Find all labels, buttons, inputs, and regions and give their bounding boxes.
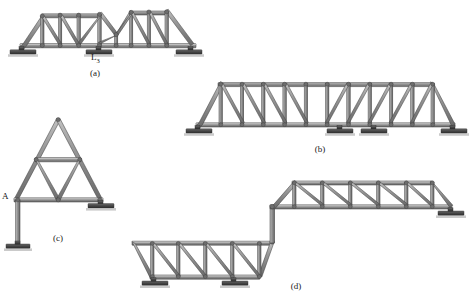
truss-c-mid-tie <box>35 158 81 162</box>
joint-label-a: A <box>2 191 9 201</box>
caption-d: (d) <box>291 281 302 291</box>
truss-figure-root: .m { stroke:#3b3b3b; stroke-width:0.5; f… <box>0 0 472 300</box>
truss-b: (b) <box>184 82 469 154</box>
truss-c-column-leg <box>16 200 20 244</box>
truss-c-support-base <box>4 241 32 251</box>
truss-figure-svg: .m { stroke:#3b3b3b; stroke-width:0.5; f… <box>0 0 472 300</box>
caption-a: (a) <box>90 68 100 78</box>
truss-d-support-right <box>436 208 466 218</box>
truss-d-upper-diagonals <box>294 182 433 206</box>
truss-a: L3 (a) <box>8 9 204 78</box>
truss-d: (d) <box>132 181 466 291</box>
caption-b: (b) <box>315 144 326 154</box>
truss-c-inner-diagonal-right <box>56 159 81 201</box>
truss-d-riser <box>270 205 275 243</box>
caption-c: (c) <box>53 233 63 243</box>
truss-d-upper-bottom-chord <box>270 205 452 209</box>
truss-c-inner-diagonal-left <box>35 159 60 201</box>
truss-a-support-middle <box>84 47 114 57</box>
truss-a-support-left <box>8 47 38 57</box>
truss-a-bottom-chord <box>20 44 196 48</box>
truss-a-support-right <box>174 47 204 57</box>
truss-c: A (c) <box>2 118 116 252</box>
